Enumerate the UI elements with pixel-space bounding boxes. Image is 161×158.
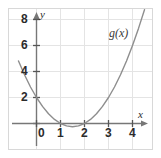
- x-tick-label-0: 0: [38, 126, 45, 140]
- y-tick-label-8: 8: [21, 12, 28, 26]
- x-tick-label-3: 3: [105, 126, 112, 140]
- y-tick-label-2: 2: [21, 90, 28, 104]
- y-axis-label: y: [40, 8, 45, 20]
- x-tick-label-1: 1: [57, 126, 64, 140]
- y-tick-label-4: 4: [21, 64, 28, 78]
- x-tick-label-2: 2: [81, 126, 88, 140]
- curve-label-g: g(x): [109, 26, 128, 41]
- x-axis-label: x: [138, 108, 143, 120]
- graph-figure: y x g(x) 8 6 4 2 0 1 2 3 4: [0, 0, 161, 158]
- y-tick-label-6: 6: [21, 38, 28, 52]
- x-tick-label-4: 4: [129, 126, 136, 140]
